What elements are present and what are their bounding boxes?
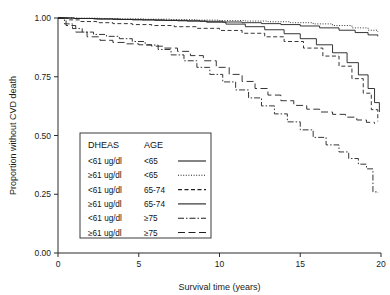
legend-dheas-value: ≥61 ug/dl: [88, 171, 122, 180]
survival-curve: [58, 18, 378, 121]
legend-age-value: 65-74: [144, 186, 165, 195]
y-tick-label: 0.25: [34, 189, 51, 199]
x-tick-label: 0: [56, 259, 61, 269]
legend-dheas-value: <61 ug/dl: [88, 186, 122, 195]
legend-age-value: ≥75: [144, 229, 158, 238]
x-tick-label: 15: [296, 259, 306, 269]
legend-age-value: ≥75: [144, 214, 158, 223]
legend-dheas-value: ≥61 ug/dl: [88, 200, 122, 209]
legend-header-age: AGE: [144, 140, 163, 150]
kaplan-meier-plot: 0.000.250.500.751.0005101520Survival tim…: [0, 0, 390, 295]
survival-curve: [58, 18, 375, 124]
legend-age-value: 65-74: [144, 200, 165, 209]
x-axis-title: Survival time (years): [178, 282, 260, 292]
legend-dheas-value: <61 ug/dl: [88, 214, 122, 223]
x-tick-label: 20: [376, 259, 386, 269]
legend-header-dheas: DHEAS: [88, 140, 119, 150]
x-tick-label: 10: [215, 259, 225, 269]
y-tick-label: 0.75: [34, 72, 51, 82]
y-tick-label: 0.00: [34, 248, 51, 258]
y-axis-title: Proportion without CVD death: [8, 76, 18, 195]
survival-chart-figure: 0.000.250.500.751.0005101520Survival tim…: [0, 0, 390, 295]
legend-age-value: <65: [144, 171, 158, 180]
legend-age-value: <65: [144, 157, 158, 166]
survival-curve: [58, 18, 379, 112]
legend-dheas-value: <61 ug/dl: [88, 157, 122, 166]
y-tick-label: 0.50: [34, 131, 51, 141]
y-tick-label: 1.00: [34, 13, 51, 23]
x-tick-label: 5: [136, 259, 141, 269]
survival-curve: [58, 18, 378, 32]
legend-dheas-value: ≥61 ug/dl: [88, 229, 122, 238]
survival-curve: [58, 18, 378, 36]
